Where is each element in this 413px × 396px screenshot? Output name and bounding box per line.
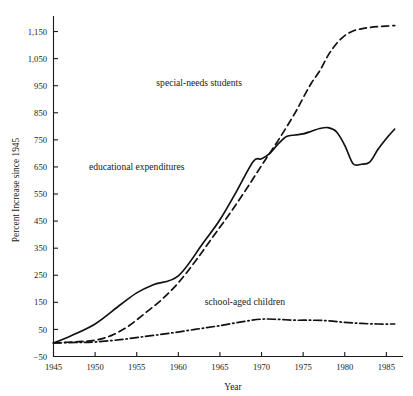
y-tick-label: 950 bbox=[34, 81, 47, 91]
line-chart: −50501502503504505506507508509501,0501,1… bbox=[0, 0, 413, 396]
x-tick-label: 1970 bbox=[253, 362, 270, 372]
y-axis-tick-labels: −50501502503504505506507508509501,0501,1… bbox=[28, 27, 47, 362]
y-tick-label: 250 bbox=[34, 270, 47, 280]
chart-figure: −50501502503504505506507508509501,0501,1… bbox=[0, 0, 413, 396]
x-tick-label: 1985 bbox=[378, 362, 395, 372]
x-tick-label: 1980 bbox=[336, 362, 353, 372]
y-tick-label: 750 bbox=[34, 135, 47, 145]
series-label-school-aged-children: school-aged children bbox=[205, 296, 285, 307]
y-tick-label: 150 bbox=[34, 297, 47, 307]
y-tick-label: 550 bbox=[34, 189, 47, 199]
series-line-school-aged-children bbox=[54, 319, 395, 343]
y-tick-label: 1,050 bbox=[28, 54, 47, 64]
y-axis-title: Percent Increase since 1945 bbox=[11, 138, 21, 243]
x-tick-label: 1960 bbox=[170, 362, 187, 372]
y-tick-label: 850 bbox=[34, 108, 47, 118]
y-tick-label: −50 bbox=[34, 352, 47, 362]
y-tick-label: 50 bbox=[38, 325, 47, 335]
x-axis-tick-labels: 194519501955196019651970197519801985 bbox=[45, 362, 395, 372]
x-axis-title: Year bbox=[224, 382, 242, 392]
series-label-educational-expenditures: educational expenditures bbox=[89, 161, 185, 172]
x-tick-label: 1950 bbox=[87, 362, 104, 372]
y-tick-label: 450 bbox=[34, 216, 47, 226]
x-tick-label: 1965 bbox=[211, 362, 228, 372]
y-tick-label: 650 bbox=[34, 162, 47, 172]
y-tick-label: 350 bbox=[34, 243, 47, 253]
x-tick-label: 1975 bbox=[295, 362, 312, 372]
x-tick-label: 1945 bbox=[45, 362, 62, 372]
y-tick-label: 1,150 bbox=[28, 27, 47, 37]
x-tick-label: 1955 bbox=[128, 362, 145, 372]
series-label-special-needs-students: special-needs students bbox=[156, 77, 242, 88]
